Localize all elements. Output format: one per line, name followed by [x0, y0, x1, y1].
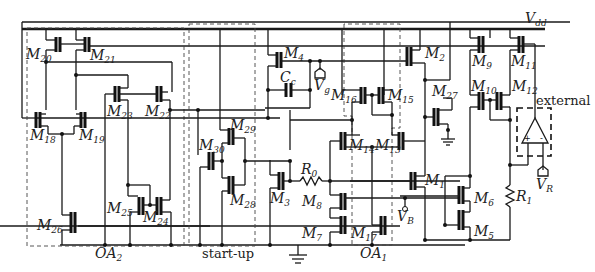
label-m18: M18 [29, 127, 56, 145]
ground-icon [441, 130, 455, 145]
label-m27: M27 [431, 83, 458, 101]
label-m6: M6 [473, 190, 494, 208]
svg-text:+: + [524, 134, 531, 143]
external-box [517, 108, 551, 156]
label-r1: R1 [515, 188, 532, 206]
junction-dot [128, 243, 132, 247]
resistor-r1-icon [506, 185, 514, 207]
label-oa1: OA1 [360, 245, 387, 263]
label-m12: M12 [511, 78, 538, 96]
label-startup: start-up [202, 246, 254, 261]
junction-dot [308, 88, 312, 92]
label-m20: M20 [25, 46, 52, 64]
label-vb: VB [397, 208, 414, 226]
label-m25: M25 [106, 200, 133, 218]
transistor-m10 [470, 92, 483, 176]
junction-dot [328, 243, 332, 247]
label-m19: M19 [78, 127, 105, 145]
label-m13: M13 [374, 137, 401, 155]
label-m14: M14 [348, 137, 375, 155]
label-m21: M21 [89, 47, 116, 65]
transistor-m8 [330, 181, 345, 210]
label-m28: M28 [229, 192, 256, 210]
transistor-m26 [62, 212, 75, 245]
label-m4: M4 [283, 45, 304, 63]
label-m23: M23 [106, 103, 133, 121]
transistor-m5 [459, 210, 470, 240]
label-oa2: OA2 [95, 245, 123, 263]
label-m2: M2 [424, 45, 445, 63]
label-cc: Cc [280, 69, 296, 87]
label-m26: M26 [36, 217, 63, 235]
junction-dot [423, 238, 427, 242]
junction-dot [268, 243, 272, 247]
label-m9: M9 [471, 53, 492, 71]
junction-dot [390, 113, 394, 117]
junction-dot [148, 203, 152, 207]
transistor-m12 [497, 92, 510, 120]
ground-icon [289, 255, 307, 263]
vdd-label: Vdd [525, 10, 547, 28]
label-vg: Vg [314, 77, 330, 95]
label-m11: M11 [510, 53, 537, 71]
label-m29: M29 [229, 117, 256, 135]
capacitor-cc [268, 83, 310, 97]
label-m22: M22 [144, 103, 171, 121]
label-r0: R0 [300, 161, 318, 179]
label-m3: M3 [269, 190, 290, 208]
transistor-m6 [459, 176, 470, 212]
transistor-m27 [425, 98, 452, 130]
opamp-icon: + - [522, 118, 548, 143]
junction-dot [266, 88, 270, 92]
label-m7: M7 [301, 225, 322, 243]
label-m10: M10 [470, 78, 497, 96]
label-m1: M1 [424, 172, 445, 190]
label-m30: M30 [198, 137, 225, 155]
circuit-diagram: + - Vdd M20 M21 M23 M22 M18 M19 M25 M24 [0, 0, 595, 272]
label-m15: M15 [387, 87, 414, 105]
label-m17: M17 [350, 225, 377, 243]
transistor-m21 [76, 30, 89, 110]
transistor-m1 [411, 172, 425, 240]
transistor-m30 [198, 110, 213, 245]
label-external: external [536, 93, 590, 108]
svg-text:-: - [540, 134, 543, 143]
junction-dot [196, 108, 200, 112]
transistor-m2 [407, 47, 425, 80]
junction-dot [169, 243, 173, 247]
label-m8: M8 [301, 193, 322, 211]
label-vr: VR [536, 176, 553, 194]
transistor-m22 [157, 86, 170, 102]
